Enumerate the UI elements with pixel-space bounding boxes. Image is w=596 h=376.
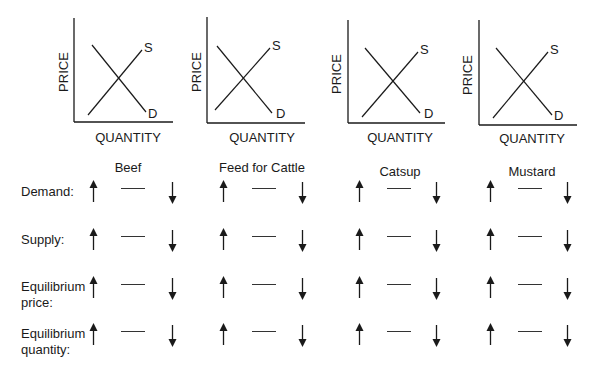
y-axis-label: PRICE: [460, 55, 475, 95]
down-arrow-icon[interactable]: [168, 182, 177, 204]
column-header-catsup: Catsup: [379, 165, 420, 179]
no-change-dash-icon[interactable]: [387, 188, 411, 189]
up-arrow-icon[interactable]: [355, 180, 364, 202]
up-arrow-icon[interactable]: [486, 180, 495, 202]
no-change-dash-icon[interactable]: [252, 188, 276, 189]
graph-mustard: SDQUANTITYPRICE: [460, 20, 577, 146]
demand-label: D: [554, 108, 563, 123]
no-change-dash-icon[interactable]: [518, 284, 542, 285]
no-change-dash-icon[interactable]: [252, 284, 276, 285]
supply-label: S: [550, 42, 559, 57]
x-axis-label: QUANTITY: [229, 130, 295, 145]
supply-label: S: [144, 40, 153, 55]
up-arrow-icon[interactable]: [219, 228, 228, 250]
down-arrow-icon[interactable]: [563, 182, 572, 204]
column-header-mustard: Mustard: [509, 165, 556, 179]
no-change-dash-icon[interactable]: [121, 188, 145, 189]
supply-curve: [88, 50, 142, 115]
down-arrow-icon[interactable]: [563, 278, 572, 300]
y-axis-label: PRICE: [189, 52, 204, 92]
up-arrow-icon[interactable]: [486, 276, 495, 298]
no-change-dash-icon[interactable]: [252, 331, 276, 332]
no-change-dash-icon[interactable]: [518, 236, 542, 237]
up-arrow-icon[interactable]: [355, 323, 364, 345]
row-label: Demand:: [21, 184, 74, 200]
demand-label: D: [276, 106, 285, 121]
row-label-line1: Supply:: [21, 232, 64, 248]
row-label: Equilibriumquantity:: [21, 326, 85, 358]
up-arrow-icon[interactable]: [89, 323, 98, 345]
down-arrow-icon[interactable]: [298, 230, 307, 252]
up-arrow-icon[interactable]: [89, 180, 98, 202]
no-change-dash-icon[interactable]: [121, 236, 145, 237]
row-label: Supply:: [21, 232, 64, 248]
demand-label: D: [148, 106, 157, 121]
row-label-line1: Equilibrium: [21, 326, 85, 342]
down-arrow-icon[interactable]: [298, 182, 307, 204]
down-arrow-icon[interactable]: [168, 278, 177, 300]
demand-label: D: [424, 106, 433, 121]
down-arrow-icon[interactable]: [432, 230, 441, 252]
up-arrow-icon[interactable]: [219, 276, 228, 298]
x-axis-label: QUANTITY: [367, 130, 433, 145]
column-header-beef: Beef: [115, 161, 142, 175]
down-arrow-icon[interactable]: [563, 230, 572, 252]
down-arrow-icon[interactable]: [298, 325, 307, 347]
no-change-dash-icon[interactable]: [387, 331, 411, 332]
up-arrow-icon[interactable]: [89, 228, 98, 250]
up-arrow-icon[interactable]: [219, 180, 228, 202]
row-label-line2: price:: [21, 295, 85, 311]
row-label-line2: quantity:: [21, 342, 85, 358]
supply-curve: [493, 52, 548, 118]
x-axis-label: QUANTITY: [95, 130, 161, 145]
graph-catsup: SDQUANTITYPRICE: [329, 20, 445, 145]
supply-label: S: [420, 42, 429, 57]
down-arrow-icon[interactable]: [168, 325, 177, 347]
up-arrow-icon[interactable]: [355, 276, 364, 298]
up-arrow-icon[interactable]: [219, 323, 228, 345]
up-arrow-icon[interactable]: [486, 323, 495, 345]
supply-demand-graphs: SDQUANTITYPRICESDQUANTITYPRICESDQUANTITY…: [0, 0, 596, 150]
y-axis-label: PRICE: [56, 52, 71, 92]
up-arrow-icon[interactable]: [89, 276, 98, 298]
x-axis-label: QUANTITY: [499, 131, 565, 146]
up-arrow-icon[interactable]: [355, 228, 364, 250]
no-change-dash-icon[interactable]: [121, 284, 145, 285]
supply-curve: [362, 52, 418, 117]
down-arrow-icon[interactable]: [298, 278, 307, 300]
no-change-dash-icon[interactable]: [252, 236, 276, 237]
row-label-line1: Equilibrium: [21, 279, 85, 295]
y-axis-label: PRICE: [329, 54, 344, 94]
column-header-feed-for-cattle: Feed for Cattle: [219, 161, 305, 175]
graph-beef: SDQUANTITYPRICE: [56, 18, 173, 145]
no-change-dash-icon[interactable]: [518, 331, 542, 332]
no-change-dash-icon[interactable]: [387, 236, 411, 237]
down-arrow-icon[interactable]: [432, 325, 441, 347]
no-change-dash-icon[interactable]: [387, 284, 411, 285]
down-arrow-icon[interactable]: [432, 182, 441, 204]
graph-feed-for-cattle: SDQUANTITYPRICE: [189, 17, 305, 145]
row-label: Equilibriumprice:: [21, 279, 85, 311]
no-change-dash-icon[interactable]: [518, 188, 542, 189]
down-arrow-icon[interactable]: [432, 278, 441, 300]
down-arrow-icon[interactable]: [563, 325, 572, 347]
demand-curve: [217, 46, 272, 113]
row-label-line1: Demand:: [21, 184, 74, 200]
no-change-dash-icon[interactable]: [121, 331, 145, 332]
down-arrow-icon[interactable]: [168, 230, 177, 252]
supply-label: S: [272, 38, 281, 53]
up-arrow-icon[interactable]: [486, 228, 495, 250]
